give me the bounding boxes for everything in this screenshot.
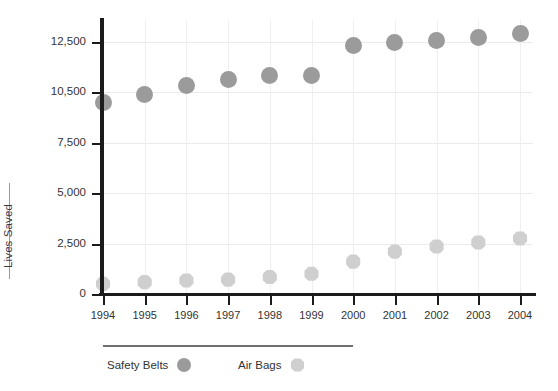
y-axis-tick xyxy=(92,294,103,296)
legend-swatch-circle-icon xyxy=(177,358,191,372)
x-axis-tick xyxy=(437,296,439,305)
x-axis-tick xyxy=(145,296,147,305)
plot-area xyxy=(103,20,533,295)
y-axis-tick-label: 12,500 xyxy=(6,36,86,48)
data-point-safety-belts xyxy=(470,29,487,46)
data-point-air-bags xyxy=(387,244,402,259)
y-axis-tick xyxy=(92,244,103,246)
gridline-horizontal xyxy=(103,92,533,93)
y-axis-tick-label: 10,500 xyxy=(6,86,86,98)
x-axis-tick-label: 2000 xyxy=(331,310,375,321)
data-point-air-bags xyxy=(471,235,486,250)
legend-item-air-bags[interactable]: Air Bags xyxy=(238,356,304,374)
data-point-safety-belts xyxy=(261,67,278,84)
data-point-safety-belts xyxy=(512,25,529,42)
x-axis-tick-label: 2004 xyxy=(498,310,542,321)
x-axis-tick xyxy=(228,296,230,305)
y-axis-tick xyxy=(92,92,103,94)
x-axis-tick xyxy=(103,296,105,305)
x-axis-tick-label: 2003 xyxy=(456,310,500,321)
data-point-safety-belts xyxy=(428,32,445,49)
data-point-safety-belts xyxy=(386,34,403,51)
x-axis-tick-label: 1994 xyxy=(81,310,125,321)
x-axis-tick xyxy=(395,296,397,305)
data-point-air-bags xyxy=(179,273,194,288)
y-axis-line xyxy=(100,18,104,296)
legend-swatch-octagon-icon xyxy=(290,358,304,372)
data-point-safety-belts xyxy=(303,67,320,84)
legend-label-safety-belts: Safety Belts xyxy=(107,359,168,371)
x-axis-tick xyxy=(312,296,314,305)
x-axis-tick-label: 1997 xyxy=(206,310,250,321)
x-axis-tick-label: 1995 xyxy=(123,310,167,321)
gridline-vertical xyxy=(228,20,229,295)
gridline-horizontal xyxy=(103,193,533,194)
gridline-vertical xyxy=(145,20,146,295)
x-axis-tick xyxy=(478,296,480,305)
y-axis-tick-label: 2,500 xyxy=(6,238,86,250)
y-axis-tick-label: 5,000 xyxy=(6,187,86,199)
data-point-air-bags xyxy=(346,254,361,269)
data-point-safety-belts xyxy=(220,71,237,88)
x-axis-tick xyxy=(520,296,522,305)
legend-rule xyxy=(103,345,353,347)
x-axis-tick-label: 1999 xyxy=(290,310,334,321)
data-point-safety-belts xyxy=(178,77,195,94)
gridline-vertical xyxy=(353,20,354,295)
y-axis-tick xyxy=(92,42,103,44)
data-point-air-bags xyxy=(304,266,319,281)
y-axis-tick xyxy=(92,143,103,145)
gridline-horizontal xyxy=(103,143,533,144)
x-axis-tick-label: 2001 xyxy=(373,310,417,321)
gridline-vertical xyxy=(520,20,521,295)
data-point-air-bags xyxy=(262,270,277,285)
gridline-vertical xyxy=(186,20,187,295)
x-axis-tick xyxy=(270,296,272,305)
gridline-vertical xyxy=(312,20,313,295)
lives-saved-scatter-chart: Lives Saved 02,5005,0007,50010,50012,500… xyxy=(0,0,558,391)
legend-label-air-bags: Air Bags xyxy=(238,359,281,371)
x-axis-tick xyxy=(186,296,188,305)
gridline-vertical xyxy=(437,20,438,295)
y-axis-tick-label: 0 xyxy=(6,288,86,300)
x-axis-tick-label: 1996 xyxy=(164,310,208,321)
gridline-horizontal xyxy=(103,244,533,245)
x-axis-tick-label: 1998 xyxy=(248,310,292,321)
legend-item-safety-belts[interactable]: Safety Belts xyxy=(107,356,191,374)
data-point-air-bags xyxy=(221,272,236,287)
data-point-air-bags xyxy=(429,239,444,254)
data-point-air-bags xyxy=(137,275,152,290)
gridline-vertical xyxy=(478,20,479,295)
data-point-safety-belts xyxy=(345,37,362,54)
x-axis-tick-label: 2002 xyxy=(415,310,459,321)
x-axis-tick xyxy=(353,296,355,305)
x-axis-line xyxy=(99,293,536,296)
y-axis-tick-label: 7,500 xyxy=(6,137,86,149)
gridline-horizontal xyxy=(103,42,533,43)
gridline-vertical xyxy=(270,20,271,295)
y-axis-tick xyxy=(92,193,103,195)
data-point-safety-belts xyxy=(136,86,153,103)
